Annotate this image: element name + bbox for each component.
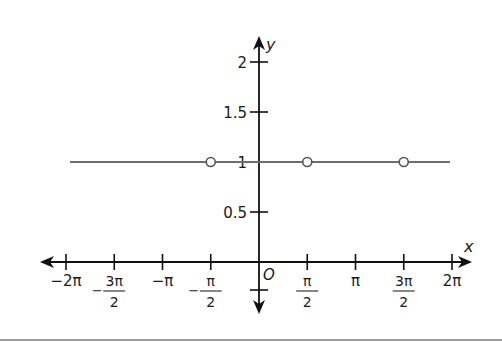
x-tick-fraction-label: π2 bbox=[296, 273, 318, 310]
y-tick-label: 2 bbox=[237, 54, 247, 72]
open-point-hole bbox=[303, 158, 312, 167]
ticks: −2π3π2−−ππ2−π2π3π22π21.510.5 bbox=[50, 54, 461, 310]
svg-text:3π: 3π bbox=[106, 273, 124, 289]
open-point-hole bbox=[399, 158, 408, 167]
function-graph: −2π3π2−−ππ2−π2π3π22π21.510.5 x y O bbox=[0, 0, 502, 342]
x-tick-label: π bbox=[351, 272, 360, 290]
x-tick-fraction-label: π2− bbox=[188, 273, 221, 310]
svg-text:2: 2 bbox=[206, 294, 215, 310]
x-tick-label: 2π bbox=[443, 272, 462, 290]
x-axis-label: x bbox=[463, 237, 474, 256]
series bbox=[70, 158, 450, 167]
svg-text:−: − bbox=[188, 283, 199, 298]
bottom-divider bbox=[0, 339, 502, 341]
svg-text:π: π bbox=[303, 273, 312, 289]
svg-text:2: 2 bbox=[399, 294, 408, 310]
x-tick-label: −π bbox=[152, 272, 174, 290]
svg-text:2: 2 bbox=[110, 294, 119, 310]
svg-text:−: − bbox=[92, 283, 103, 298]
x-tick-fraction-label: 3π2− bbox=[92, 273, 125, 310]
svg-text:π: π bbox=[207, 273, 216, 289]
open-point-hole bbox=[206, 158, 215, 167]
y-tick-label: 1.5 bbox=[223, 104, 247, 122]
plot-area: −2π3π2−−ππ2−π2π3π22π21.510.5 x y O bbox=[0, 0, 502, 342]
x-tick-label: −2π bbox=[50, 272, 81, 290]
svg-text:2: 2 bbox=[303, 294, 312, 310]
origin-label: O bbox=[263, 266, 275, 284]
x-tick-fraction-label: 3π2 bbox=[393, 273, 415, 310]
y-tick-label: 0.5 bbox=[223, 204, 247, 222]
y-axis-label: y bbox=[265, 35, 276, 54]
svg-text:3π: 3π bbox=[395, 273, 413, 289]
